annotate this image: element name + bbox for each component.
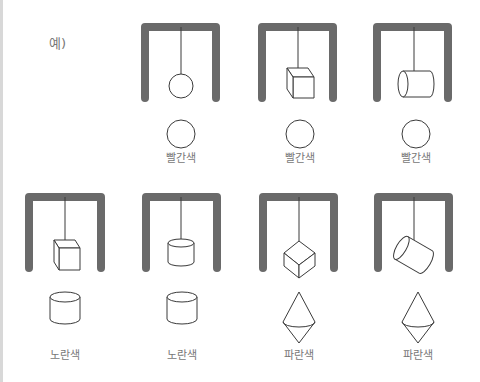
hanging-cube [284, 241, 315, 278]
panel-4: 노란색 [29, 197, 101, 362]
panel-3: 빨간색 [377, 27, 448, 165]
hanging-cylinder [391, 234, 437, 276]
color-label: 파란색 [403, 349, 433, 362]
hanging-cylinder [398, 71, 434, 97]
panel-7: 파란색 [378, 197, 449, 362]
hanging-cube [54, 240, 80, 270]
pendulum-diagram: 예) 빨간색 빨간색 빨간색 [0, 0, 480, 382]
color-label: 빨간색 [285, 152, 315, 165]
shadow-double-cone [402, 292, 434, 343]
hanging-cube [287, 68, 314, 98]
hanging-cylinder [168, 239, 194, 266]
shadow-double-cone [283, 292, 315, 343]
color-label: 빨간색 [166, 152, 196, 165]
shadow-cylinder [167, 292, 197, 324]
panel-5: 노란색 [146, 197, 217, 362]
color-label: 노란색 [50, 349, 80, 362]
panel-1: 빨간색 [145, 27, 216, 165]
shadow-cylinder [50, 292, 80, 324]
hanging-sphere [169, 74, 193, 98]
example-label: 예) [49, 36, 66, 51]
panel-6: 파란색 [263, 197, 334, 362]
panel-2: 빨간색 [262, 27, 333, 165]
shadow-circle [402, 120, 430, 148]
shadow-circle [167, 120, 195, 148]
color-label: 노란색 [167, 349, 197, 362]
color-label: 빨간색 [401, 152, 431, 165]
color-label: 파란색 [284, 349, 314, 362]
shadow-circle [286, 120, 314, 148]
